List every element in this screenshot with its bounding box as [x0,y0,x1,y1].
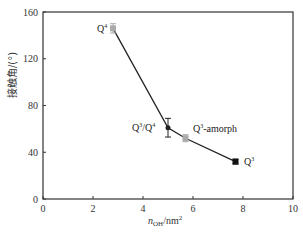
data-point-square [183,135,189,141]
y-axis-label: 接触角/(°) [4,45,16,105]
label-q3-amorph: Q3-amorph [193,123,237,134]
y-tick-label: 0 [33,194,38,205]
y-tick-label: 160 [23,7,38,18]
label-q3: Q3 [244,156,254,167]
axis-ticks: 024681004080120160 [23,7,298,215]
series-line [113,28,236,161]
x-tick-label: 4 [141,203,146,214]
point-labels: Q4 Q3/Q4 Q3-amorph Q3 [97,23,254,167]
axes-frame [43,12,293,199]
data-series [110,24,239,165]
data-point-square [110,25,116,31]
x-tick-label: 6 [191,203,196,214]
x-tick-label: 0 [41,203,46,214]
label-q4: Q4 [97,23,107,34]
data-point-circle [166,125,171,130]
y-tick-label: 40 [28,147,38,158]
y-tick-label: 120 [23,53,38,64]
x-tick-label: 10 [288,203,298,214]
x-tick-label: 2 [91,203,96,214]
data-point-square [233,159,239,165]
chart-plot-area: 024681004080120160 Q4 Q3/Q4 Q3-amorph Q3 [0,0,303,236]
label-q3-q4: Q3/Q4 [132,122,155,133]
x-tick-label: 8 [241,203,246,214]
x-axis-label: nOH/nm2 [148,214,182,228]
y-tick-label: 80 [28,100,38,111]
